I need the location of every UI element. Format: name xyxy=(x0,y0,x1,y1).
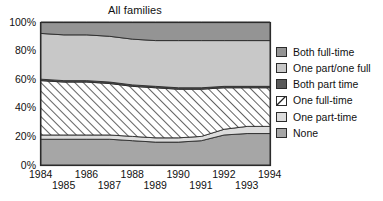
legend-item[interactable]: Both full-time xyxy=(276,44,383,60)
area-band xyxy=(41,33,270,87)
x-axis-tick-label: 1985 xyxy=(52,179,75,191)
legend-swatch-icon xyxy=(276,128,287,138)
chart-legend: Both full-timeOne part/one fullBoth part… xyxy=(276,44,383,141)
x-axis-tick-label: 1992 xyxy=(212,168,235,180)
y-axis-tick-label: 40% xyxy=(0,101,36,113)
legend-item[interactable]: One part/one full xyxy=(276,60,383,76)
x-axis-tick-label: 1994 xyxy=(258,168,281,180)
legend-item-label: One part-time xyxy=(293,112,357,123)
x-axis-tick-label: 1988 xyxy=(121,168,144,180)
legend-item-label: Both part time xyxy=(293,79,358,90)
legend-item-label: None xyxy=(293,128,318,139)
x-axis-tick-label: 1984 xyxy=(29,168,52,180)
x-axis-tick-label: 1993 xyxy=(235,179,258,191)
x-axis-tick-label: 1991 xyxy=(189,179,212,191)
y-axis-tick-label: 60% xyxy=(0,73,36,85)
y-axis-tick-label: 20% xyxy=(0,130,36,142)
legend-swatch-icon xyxy=(276,63,287,73)
legend-item-label: Both full-time xyxy=(293,47,354,58)
legend-item[interactable]: Both part time xyxy=(276,76,383,92)
legend-item-label: One part/one full xyxy=(293,63,371,74)
legend-item[interactable]: None xyxy=(276,125,383,141)
x-axis-tick-label: 1989 xyxy=(144,179,167,191)
legend-swatch-icon xyxy=(276,112,287,122)
legend-item-label: One full-time xyxy=(293,95,353,106)
chart-figure: All families 0%20%40%60%80%100% 19841985… xyxy=(0,0,383,201)
y-axis-tick-label: 80% xyxy=(0,44,36,56)
legend-swatch-icon xyxy=(276,96,287,106)
legend-swatch-icon xyxy=(276,79,287,89)
x-axis-tick-label: 1987 xyxy=(98,179,121,191)
legend-swatch-icon xyxy=(276,47,287,57)
y-axis-tick-label: 100% xyxy=(0,16,36,28)
legend-item[interactable]: One part-time xyxy=(276,109,383,125)
x-axis-tick-label: 1986 xyxy=(75,168,98,180)
area-series-group xyxy=(41,22,270,165)
x-axis-tick-label: 1990 xyxy=(166,168,189,180)
legend-item[interactable]: One full-time xyxy=(276,93,383,109)
